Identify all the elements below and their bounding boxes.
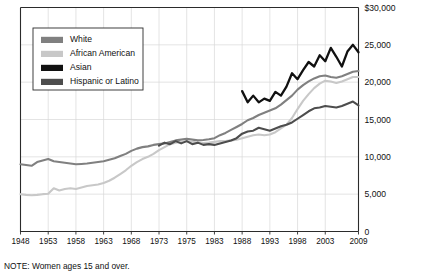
x-tick-label: 1953 — [39, 237, 58, 246]
y-axis-tick-labels: $30,00025,00020,00015,00010,0005,0000 — [365, 3, 396, 237]
x-tick-label: 1988 — [233, 237, 252, 246]
y-tick-label: 25,000 — [365, 40, 392, 50]
x-tick-label: 2003 — [316, 237, 335, 246]
legend-label-white: White — [70, 34, 92, 44]
chart-legend: WhiteAfrican AmericanAsianHispanic or La… — [33, 28, 143, 90]
median-earnings-line-chart: $30,00025,00020,00015,00010,0005,0000 19… — [0, 0, 427, 271]
series-line-asian — [242, 45, 358, 103]
legend-swatch-african-american — [41, 51, 63, 57]
x-axis-tick-labels: 1948195319581963196819731975198319881993… — [11, 237, 368, 246]
x-tick-label: 1968 — [122, 237, 141, 246]
y-tick-label: 10,000 — [365, 152, 392, 162]
legend-swatch-white — [41, 37, 63, 43]
y-tick-label: $30,000 — [365, 3, 396, 13]
y-tick-label: 5,000 — [365, 189, 387, 199]
x-tick-label: 1963 — [95, 237, 114, 246]
x-tick-label: 2009 — [349, 237, 368, 246]
note-text: NOTE: Women ages 15 and over. — [4, 261, 130, 271]
series-line-african-american — [21, 77, 359, 195]
x-tick-label: 1948 — [11, 237, 30, 246]
y-tick-label: 0 — [365, 227, 370, 237]
legend-label-asian: Asian — [70, 62, 92, 72]
legend-swatch-hispanic-or-latino — [41, 79, 63, 85]
chart-note: NOTE: Women ages 15 and over. — [4, 255, 130, 271]
legend-label-hispanic-or-latino: Hispanic or Latino — [70, 76, 139, 86]
x-tick-label: 1983 — [205, 237, 224, 246]
y-tick-label: 15,000 — [365, 115, 392, 125]
legend-label-african-american: African American — [70, 48, 135, 58]
x-tick-label: 1993 — [261, 237, 280, 246]
legend-swatch-asian — [41, 65, 63, 71]
x-tick-label: 1958 — [67, 237, 86, 246]
y-tick-label: 20,000 — [365, 77, 392, 87]
x-tick-label: 1975 — [178, 237, 197, 246]
x-tick-label: 1973 — [150, 237, 169, 246]
chart-container: $30,00025,00020,00015,00010,0005,0000 19… — [0, 0, 427, 271]
x-tick-label: 1998 — [288, 237, 307, 246]
